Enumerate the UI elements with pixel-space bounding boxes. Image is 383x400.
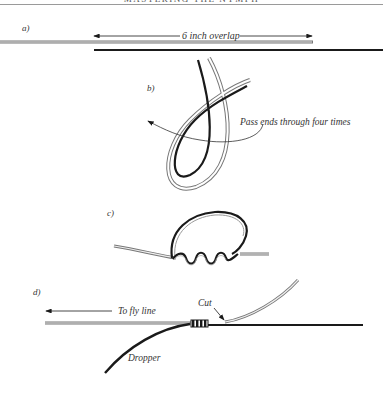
cut-pointer-arrow bbox=[214, 308, 224, 320]
light-line-wrap bbox=[114, 246, 269, 258]
dark-line-loop bbox=[175, 60, 247, 177]
dropper-annotation: Dropper bbox=[127, 353, 161, 363]
light-cut-tag bbox=[225, 280, 298, 322]
pass-ends-annotation: Pass ends through four times bbox=[239, 117, 351, 127]
panel-d-label: d) bbox=[33, 287, 41, 297]
cut-annotation: Cut bbox=[198, 298, 212, 308]
panel-c-label: c) bbox=[107, 208, 114, 218]
knot-barrel bbox=[191, 320, 208, 327]
overlap-annotation: 6 inch overlap bbox=[182, 30, 240, 41]
panel-b: b) Pass ends through four times bbox=[147, 58, 351, 189]
panel-a-label: a) bbox=[22, 23, 30, 33]
dropper-line bbox=[105, 324, 190, 373]
panel-b-label: b) bbox=[147, 83, 155, 93]
panel-c: c) bbox=[107, 208, 269, 265]
panel-a: a) 6 inch overlap bbox=[0, 23, 383, 50]
panel-d: d) To fly line Cut Dropper bbox=[33, 280, 363, 373]
to-fly-line-annotation: To fly line bbox=[118, 306, 156, 316]
knot-diagram: a) 6 inch overlap b) Pass ends through f… bbox=[0, 0, 383, 400]
